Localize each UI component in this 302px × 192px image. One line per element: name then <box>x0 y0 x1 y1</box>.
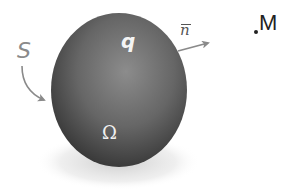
surface-label: S <box>17 40 31 62</box>
surface-pointer-arrow-icon <box>22 66 44 100</box>
charge-label: q <box>121 31 135 51</box>
volume-body <box>51 13 187 167</box>
gauss-diagram: S q Ω n M <box>0 0 302 192</box>
point-dot-icon <box>254 30 258 34</box>
normal-label: n <box>180 23 190 38</box>
diagram-graphics <box>0 0 302 192</box>
normal-vector-arrow-icon <box>178 43 208 51</box>
point-label: M <box>259 12 277 34</box>
volume-label: Ω <box>102 124 117 142</box>
